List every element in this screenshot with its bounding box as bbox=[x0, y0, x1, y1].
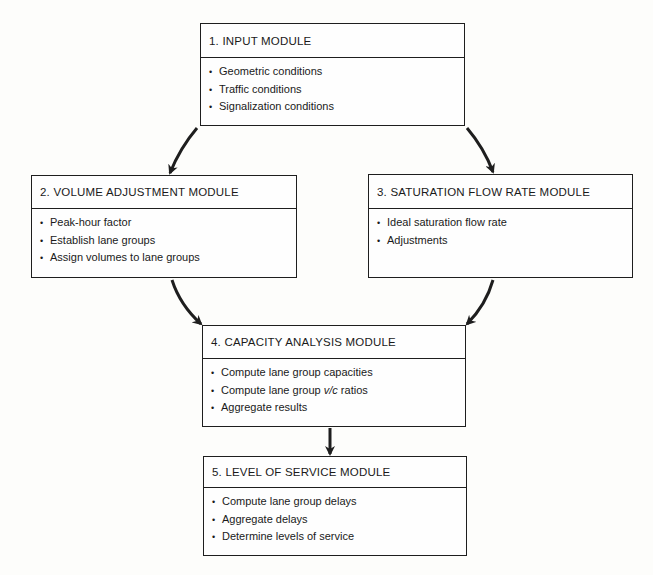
module-input: 1. INPUT MODULE •Geometric conditions •T… bbox=[200, 23, 465, 126]
module-items: •Compute lane group capacities •Compute … bbox=[203, 359, 465, 417]
item-text: Aggregate results bbox=[221, 399, 307, 416]
module-title: 3. SATURATION FLOW RATE MODULE bbox=[369, 175, 632, 209]
item-text: Establish lane groups bbox=[50, 232, 155, 249]
list-item: •Signalization conditions bbox=[209, 98, 464, 116]
bullet-icon: • bbox=[40, 215, 50, 232]
list-item: •Assign volumes to lane groups bbox=[40, 249, 296, 267]
item-text: Signalization conditions bbox=[219, 98, 334, 115]
bullet-icon: • bbox=[209, 99, 219, 116]
list-item: •Compute lane group v/c ratios bbox=[211, 382, 465, 400]
item-text: Determine levels of service bbox=[222, 528, 354, 545]
module-title: 2. VOLUME ADJUSTMENT MODULE bbox=[32, 176, 296, 209]
list-item: •Establish lane groups bbox=[40, 232, 296, 250]
bullet-icon: • bbox=[212, 529, 222, 546]
list-item: •Determine levels of service bbox=[212, 528, 466, 546]
list-item: •Aggregate results bbox=[211, 399, 465, 417]
module-volume-adjustment: 2. VOLUME ADJUSTMENT MODULE •Peak-hour f… bbox=[31, 175, 297, 278]
bullet-icon: • bbox=[212, 512, 222, 529]
module-level-of-service: 5. LEVEL OF SERVICE MODULE •Compute lane… bbox=[203, 456, 467, 556]
bullet-icon: • bbox=[211, 365, 221, 382]
module-capacity-analysis: 4. CAPACITY ANALYSIS MODULE •Compute lan… bbox=[202, 325, 466, 427]
vc-ratio-term: v/c bbox=[324, 384, 338, 396]
list-item: •Ideal saturation flow rate bbox=[377, 214, 632, 232]
arrow-input-to-saturation-flow-rate bbox=[467, 128, 493, 172]
item-text: Aggregate delays bbox=[222, 511, 308, 528]
module-saturation-flow-rate: 3. SATURATION FLOW RATE MODULE •Ideal sa… bbox=[368, 174, 633, 278]
module-items: •Compute lane group delays •Aggregate de… bbox=[204, 488, 466, 546]
item-text: Peak-hour factor bbox=[50, 214, 131, 231]
arrow-saturation-flow-rate-to-capacity-analysis bbox=[467, 280, 493, 324]
bullet-icon: • bbox=[211, 400, 221, 417]
bullet-icon: • bbox=[40, 233, 50, 250]
item-text: Compute lane group capacities bbox=[221, 364, 373, 381]
item-text: Ideal saturation flow rate bbox=[387, 214, 507, 231]
item-text: Assign volumes to lane groups bbox=[50, 249, 200, 266]
module-items: •Geometric conditions •Traffic condition… bbox=[201, 58, 464, 116]
list-item: •Peak-hour factor bbox=[40, 214, 296, 232]
bullet-icon: • bbox=[211, 383, 221, 400]
list-item: •Adjustments bbox=[377, 232, 632, 250]
arrow-volume-adjustment-to-capacity-analysis bbox=[172, 280, 201, 324]
item-text: Adjustments bbox=[387, 232, 448, 249]
module-items: •Peak-hour factor •Establish lane groups… bbox=[32, 209, 296, 267]
module-title: 1. INPUT MODULE bbox=[201, 24, 464, 58]
arrow-input-to-volume-adjustment bbox=[170, 128, 197, 173]
item-text: Traffic conditions bbox=[219, 81, 302, 98]
list-item: •Geometric conditions bbox=[209, 63, 464, 81]
bullet-icon: • bbox=[377, 215, 387, 232]
bullet-icon: • bbox=[209, 82, 219, 99]
item-text: Compute lane group delays bbox=[222, 493, 357, 510]
bullet-icon: • bbox=[209, 64, 219, 81]
bullet-icon: • bbox=[212, 494, 222, 511]
list-item: •Compute lane group delays bbox=[212, 493, 466, 511]
bullet-icon: • bbox=[40, 250, 50, 267]
module-title: 5. LEVEL OF SERVICE MODULE bbox=[204, 457, 466, 488]
module-items: •Ideal saturation flow rate •Adjustments bbox=[369, 209, 632, 249]
list-item: •Traffic conditions bbox=[209, 81, 464, 99]
item-text: Compute lane group v/c ratios bbox=[221, 382, 368, 399]
item-text: Geometric conditions bbox=[219, 63, 322, 80]
module-title: 4. CAPACITY ANALYSIS MODULE bbox=[203, 326, 465, 359]
list-item: •Compute lane group capacities bbox=[211, 364, 465, 382]
bullet-icon: • bbox=[377, 233, 387, 250]
list-item: •Aggregate delays bbox=[212, 511, 466, 529]
